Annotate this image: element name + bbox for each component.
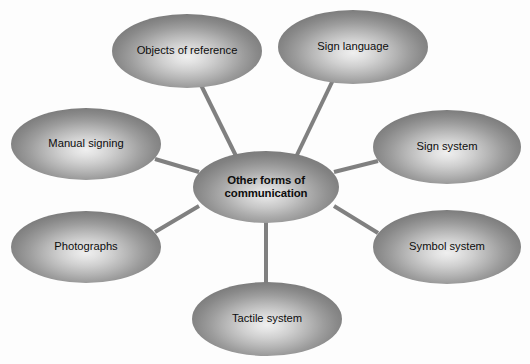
- diagram-canvas: Other forms of communicationObjects of r…: [0, 0, 530, 364]
- node-photographs[interactable]: Photographs: [11, 211, 161, 283]
- node-label-symbol-system: Symbol system: [399, 240, 495, 253]
- connector-photographs: [155, 206, 199, 232]
- node-objects-of-reference[interactable]: Objects of reference: [112, 14, 262, 88]
- node-label-objects-of-reference: Objects of reference: [127, 44, 248, 57]
- node-tactile-system[interactable]: Tactile system: [192, 282, 342, 356]
- node-label-hub: Other forms of communication: [215, 174, 318, 201]
- node-manual-signing[interactable]: Manual signing: [11, 108, 161, 180]
- connector-objects-of-reference: [200, 83, 236, 156]
- node-sign-system[interactable]: Sign system: [373, 110, 521, 184]
- node-hub[interactable]: Other forms of communication: [193, 151, 339, 223]
- node-label-manual-signing: Manual signing: [38, 137, 133, 150]
- node-symbol-system[interactable]: Symbol system: [373, 210, 521, 284]
- node-label-sign-system: Sign system: [407, 140, 488, 153]
- connector-sign-language: [296, 80, 333, 157]
- connector-sign-system: [334, 161, 378, 172]
- connector-manual-signing: [155, 159, 199, 172]
- node-label-tactile-system: Tactile system: [222, 312, 312, 325]
- node-label-sign-language: Sign language: [307, 40, 399, 53]
- node-sign-language[interactable]: Sign language: [278, 10, 428, 84]
- connector-symbol-system: [334, 206, 378, 233]
- node-label-photographs: Photographs: [44, 240, 127, 253]
